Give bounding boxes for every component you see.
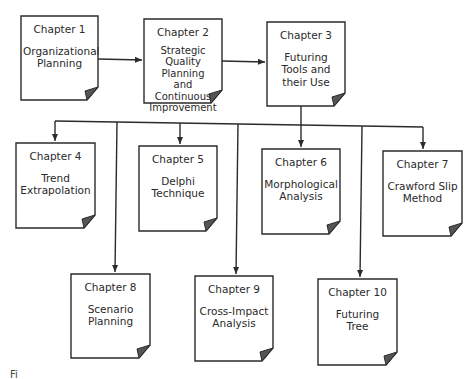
chapter-title: Trend Extrapolation: [15, 172, 96, 197]
chapter-title: Cross-Impact Analysis: [194, 305, 274, 330]
node-chapter-5: Chapter 5Delphi Technique: [138, 145, 218, 232]
chapter-number: Chapter 1: [20, 23, 99, 36]
edge-ch2-ch3: [222, 61, 265, 62]
chapter-number: Chapter 3: [266, 29, 346, 42]
chapter-title: Futuring Tools and their Use: [266, 51, 346, 89]
node-chapter-2: Chapter 2Strategic Quality Planning and …: [143, 18, 223, 104]
node-chapter-7: Chapter 7Crawford Slip Method: [382, 150, 463, 237]
edge-ch3-ch8: [115, 122, 117, 272]
chapter-number: Chapter 9: [194, 283, 274, 296]
chapter-title: Delphi Technique: [138, 175, 218, 200]
chapter-title: Futuring Tree: [317, 308, 398, 333]
chapter-number: Chapter 5: [138, 153, 218, 166]
chapter-number: Chapter 10: [317, 286, 398, 299]
chapter-title: Strategic Quality Planning and Continuou…: [143, 45, 223, 114]
node-chapter-8: Chapter 8Scenario Planning: [70, 273, 151, 359]
edge-ch1-ch2: [98, 59, 142, 60]
node-chapter-10: Chapter 10Futuring Tree: [317, 278, 398, 366]
node-chapter-6: Chapter 6Morphological Analysis: [261, 148, 341, 235]
chapter-number: Chapter 8: [70, 281, 151, 294]
chapter-title: Organizational Planning: [20, 45, 99, 70]
chapter-number: Chapter 7: [382, 158, 463, 171]
node-chapter-9: Chapter 9Cross-Impact Analysis: [194, 275, 274, 362]
distribution-bus: [55, 121, 423, 127]
node-chapter-1: Chapter 1Organizational Planning: [20, 15, 99, 101]
chapter-number: Chapter 4: [15, 150, 96, 163]
figure-caption-partial: Fi: [10, 369, 18, 379]
edge-ch3-ch10: [360, 126, 362, 277]
edge-ch3-ch9: [236, 124, 238, 274]
chapter-title: Crawford Slip Method: [382, 180, 463, 205]
chapter-number: Chapter 2: [143, 26, 223, 39]
node-chapter-4: Chapter 4Trend Extrapolation: [15, 142, 96, 229]
chapter-title: Morphological Analysis: [261, 178, 341, 203]
chapter-title: Scenario Planning: [70, 303, 151, 328]
chapter-number: Chapter 6: [261, 156, 341, 169]
node-chapter-3: Chapter 3Futuring Tools and their Use: [266, 21, 346, 107]
